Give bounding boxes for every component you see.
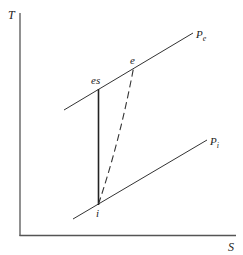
point-label-es: es: [91, 74, 100, 86]
isobar-inlet-label: Pi: [209, 135, 219, 150]
point-label-i: i: [96, 207, 99, 219]
x-axis-label: S: [228, 240, 234, 254]
ts-diagram: T S Pe Pi es e i: [0, 0, 243, 255]
isobar-exit-pressure: [64, 33, 193, 110]
point-label-e: e: [130, 54, 135, 66]
isobar-exit-label: Pe: [195, 28, 207, 43]
y-axis-label: T: [8, 8, 16, 22]
isobar-exit-label-sub: e: [203, 34, 207, 43]
process-actual: [99, 68, 134, 204]
isobar-inlet-pressure: [73, 140, 207, 219]
isobar-inlet-label-sub: i: [217, 141, 219, 150]
